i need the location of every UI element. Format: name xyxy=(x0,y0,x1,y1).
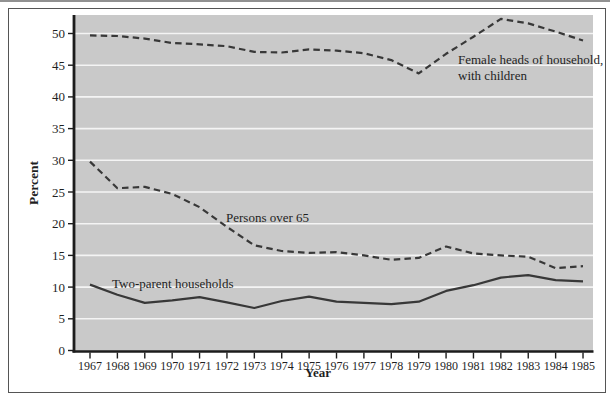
x-tick-label-1979: 1979 xyxy=(407,359,431,373)
figure-canvas: 0510152025303540455019671968196919701971… xyxy=(0,0,610,403)
x-tick-label-1968: 1968 xyxy=(105,359,129,373)
y-tick-label-35: 35 xyxy=(52,121,65,136)
x-tick-label-1983: 1983 xyxy=(516,359,540,373)
x-axis-title: Year xyxy=(305,365,331,380)
y-tick-label-10: 10 xyxy=(52,280,65,295)
annotation-0-line-0: Female heads of household, xyxy=(458,52,603,67)
y-tick-label-20: 20 xyxy=(52,216,65,231)
line-chart: 0510152025303540455019671968196919701971… xyxy=(0,0,610,403)
x-tick-label-1970: 1970 xyxy=(160,359,184,373)
x-tick-label-1980: 1980 xyxy=(434,359,458,373)
y-tick-label-45: 45 xyxy=(52,58,65,73)
x-tick-label-1971: 1971 xyxy=(188,359,212,373)
y-tick-label-50: 50 xyxy=(52,26,65,41)
x-tick-label-1985: 1985 xyxy=(571,359,595,373)
x-tick-label-1982: 1982 xyxy=(489,359,513,373)
y-tick-label-30: 30 xyxy=(52,153,65,168)
x-tick-label-1977: 1977 xyxy=(352,359,376,373)
annotation-0-line-1: with children xyxy=(458,68,527,83)
x-tick-label-1972: 1972 xyxy=(215,359,239,373)
x-tick-label-1981: 1981 xyxy=(461,359,485,373)
x-tick-label-1969: 1969 xyxy=(133,359,157,373)
annotation-2-line-0: Two-parent households xyxy=(112,276,233,291)
annotation-1-line-0: Persons over 65 xyxy=(226,210,309,225)
y-axis-title: Percent xyxy=(26,161,41,205)
y-tick-label-0: 0 xyxy=(59,343,66,358)
y-tick-label-15: 15 xyxy=(52,248,65,263)
x-tick-label-1978: 1978 xyxy=(379,359,403,373)
y-tick-label-40: 40 xyxy=(52,89,65,104)
x-tick-label-1973: 1973 xyxy=(242,359,266,373)
chart-svg: 0510152025303540455019671968196919701971… xyxy=(0,0,610,403)
y-tick-label-25: 25 xyxy=(52,185,65,200)
x-tick-label-1984: 1984 xyxy=(544,359,568,373)
y-tick-label-5: 5 xyxy=(59,311,66,326)
x-tick-label-1967: 1967 xyxy=(78,359,102,373)
x-tick-label-1974: 1974 xyxy=(270,359,294,373)
